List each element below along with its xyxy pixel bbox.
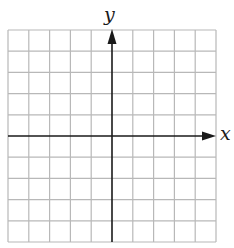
y-axis-label: y [104,5,115,24]
x-axis-label: x [220,124,231,143]
coordinate-plane [0,0,234,248]
x-axis-arrow-icon [202,132,216,141]
y-axis-arrow-icon [108,29,117,44]
